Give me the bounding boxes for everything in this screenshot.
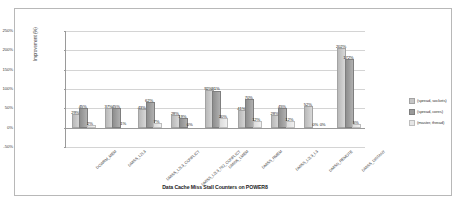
legend-label-spread-cores: (spread, cores)	[417, 109, 443, 114]
x-axis-tick-label: DMISS_L2L3_L3	[294, 149, 319, 172]
y-axis-tick: 100%	[0, 87, 13, 91]
y-axis-tick: 200%	[0, 48, 13, 52]
chart-title: Data Cache Miss Stall Counters on POWER8	[65, 184, 365, 190]
x-axis-tick-label: DCWRM_MEM	[94, 149, 117, 170]
bar-value-label: 45%	[271, 105, 293, 109]
x-axis-tick-label: DMISS_REMOTE	[328, 149, 354, 173]
chart-page: Improvement (%) -50%0%50%100%150%200%250…	[0, 0, 466, 205]
y-axis-tick: -50%	[0, 145, 13, 149]
bar-value-label: 45%	[105, 105, 127, 109]
y-axis-tick-mark	[64, 108, 66, 109]
legend-swatch-master-thread	[409, 120, 415, 126]
bar-group: 37%45%1%	[105, 31, 127, 147]
bar-group: 202%172%5%	[337, 31, 359, 147]
bar-group: 52%0%0%	[304, 31, 326, 147]
bar-value-label: 172%	[337, 56, 359, 60]
y-axis-tick: 250%	[0, 29, 13, 33]
bar-value-label: 12%	[245, 118, 267, 122]
legend-label-master-thread: (master, thread)	[417, 120, 444, 125]
y-axis-tick: 150%	[0, 68, 13, 72]
x-axis-tick-label: DMISS_L2L3	[127, 149, 147, 168]
bar-value-label: 0%	[312, 123, 334, 127]
legend-swatch-spread-sockets	[409, 98, 415, 104]
bar-value-label: 62%	[138, 99, 160, 103]
legend-swatch-spread-cores	[409, 109, 415, 115]
legend-item-spread-cores: (spread, cores)	[409, 106, 465, 117]
chart-legend: (spread, sockets) (spread, cores) (maste…	[409, 95, 465, 128]
y-axis-tick: 0%	[0, 126, 13, 130]
y-axis-tick-mark	[64, 70, 66, 71]
bar-group: 28%19%0%	[171, 31, 193, 147]
bar-value-label: 20%	[212, 115, 234, 119]
bar-group: 43%62%7%	[138, 31, 160, 147]
bar-value-label: 19%	[171, 115, 193, 119]
legend-item-master-thread: (master, thread)	[409, 117, 465, 128]
bar-value-label: 2%	[79, 122, 101, 126]
bar-value-label: 7%	[145, 120, 167, 124]
bar-value-label: 12%	[278, 118, 300, 122]
y-axis-tick-mark	[64, 31, 66, 32]
plot-area: -50%0%50%100%150%200%250%29%45%2%37%45%1…	[65, 31, 365, 148]
legend-item-spread-sockets: (spread, sockets)	[409, 95, 465, 106]
legend-label-spread-sockets: (spread, sockets)	[417, 98, 447, 103]
bar-value-label: 0%	[179, 123, 201, 127]
x-axis-tick-label: DMISS_RMEM	[260, 149, 282, 170]
bar-group: 41%70%12%	[238, 31, 260, 147]
bar-value-label: 45%	[72, 105, 94, 109]
chart-frame: Improvement (%) -50%0%50%100%150%200%250…	[14, 8, 452, 196]
bar-group: 29%45%2%	[72, 31, 94, 147]
bar-value-label: 70%	[238, 96, 260, 100]
bar-value-label: 52%	[297, 103, 319, 107]
bar[interactable]	[345, 59, 354, 128]
bar-value-label: 202%	[330, 45, 352, 49]
x-axis-tick-label: DMISS_DISTANT	[361, 149, 386, 173]
y-axis-tick-mark	[64, 50, 66, 51]
y-axis-tick-mark	[64, 89, 66, 90]
y-axis-tick-mark	[64, 128, 66, 129]
y-axis-tick: 50%	[0, 106, 13, 110]
bar-value-label: 91%	[205, 87, 227, 91]
bar-value-label: 1%	[112, 122, 134, 126]
gridline	[66, 147, 365, 148]
x-axis-tick-label: DMISS_L2L3_CONFLICT	[165, 149, 200, 182]
y-axis-label: Improvement (%)	[33, 1, 38, 61]
x-axis-tick-label: DMISS_L2L3_NO_CONFLICT	[200, 149, 241, 187]
bar-group: 92%91%20%	[205, 31, 227, 147]
bar-value-label: 5%	[345, 121, 367, 125]
y-axis-tick-mark	[64, 147, 66, 148]
bar-group: 28%45%12%	[271, 31, 293, 147]
bar[interactable]	[219, 118, 228, 128]
